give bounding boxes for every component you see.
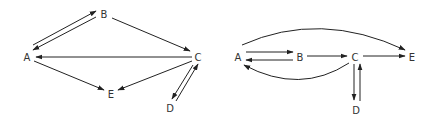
node-right-d: D (352, 105, 360, 116)
left-graph: ABCDE (24, 9, 202, 114)
edge-left-c-to-e (118, 61, 192, 90)
node-left-e: E (108, 89, 114, 100)
edge-left-d-to-c (176, 64, 198, 101)
edge-right-c-to-a (244, 63, 349, 80)
node-left-b: B (101, 9, 108, 20)
node-right-c: C (352, 52, 359, 63)
node-right-a: A (235, 52, 242, 63)
edge-left-b-to-a (33, 17, 96, 50)
node-right-b: B (297, 52, 304, 63)
edge-left-b-to-c (112, 18, 190, 51)
edge-left-a-to-e (34, 61, 104, 90)
graph-diagrams: ABCDE ABCDE (0, 0, 437, 124)
edge-left-c-to-d (172, 65, 193, 99)
right-graph: ABCDE (235, 29, 416, 116)
edge-left-a-to-b (33, 11, 96, 45)
node-left-c: C (195, 52, 202, 63)
node-left-d: D (166, 103, 174, 114)
node-right-e: E (409, 52, 415, 63)
edge-right-a-to-e (242, 29, 405, 50)
node-left-a: A (24, 52, 31, 63)
